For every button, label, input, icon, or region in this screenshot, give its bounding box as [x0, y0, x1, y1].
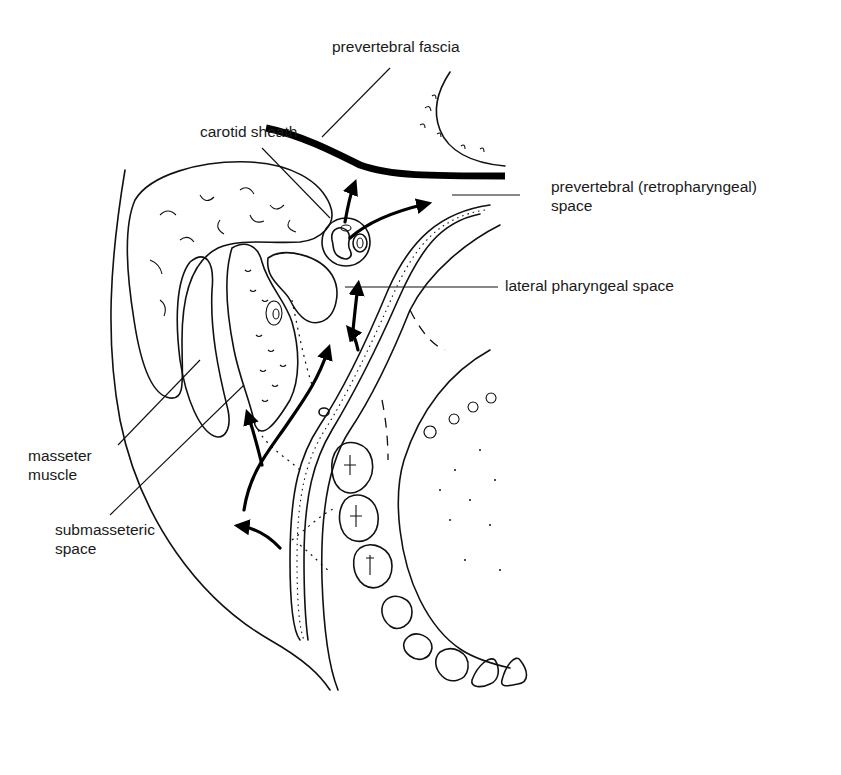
label-submasseteric-space: submasseteric space — [55, 520, 155, 558]
teeth — [332, 443, 527, 687]
label-prevertebral-fascia: prevertebral fascia — [332, 37, 460, 56]
parotid-gland — [127, 162, 332, 398]
label-text-line2: space — [55, 539, 155, 558]
label-text-line2: muscle — [28, 465, 92, 484]
tongue — [398, 350, 510, 668]
label-text: prevertebral fascia — [332, 37, 460, 56]
pharyngeal-wall — [290, 205, 500, 690]
label-text-line1: submasseteric — [55, 520, 155, 539]
carotid-sheath — [322, 218, 370, 266]
label-carotid-sheath: carotid sheath — [200, 122, 297, 141]
label-text-line1: prevertebral (retropharyngeal) — [551, 177, 757, 196]
cheek-outline — [111, 170, 330, 690]
label-lateral-pharyngeal-space: lateral pharyngeal space — [505, 276, 674, 295]
masseter-muscle — [177, 257, 229, 437]
leader-prevertebral-fascia — [322, 68, 390, 137]
label-text-line2: space — [551, 196, 757, 215]
leader-masseter-muscle — [118, 360, 200, 445]
label-masseter-muscle: masseter muscle — [28, 446, 92, 484]
medial-pterygoid-muscle — [268, 253, 337, 323]
label-prevertebral-retropharyngeal-space: prevertebral (retropharyngeal) space — [551, 177, 757, 215]
label-text: carotid sheath — [200, 122, 297, 141]
label-text-line1: masseter — [28, 446, 92, 465]
mandibular-ramus — [227, 244, 298, 431]
label-text: lateral pharyngeal space — [505, 276, 674, 295]
anatomy-diagram — [0, 0, 841, 775]
vertebral-body — [420, 72, 505, 166]
prevertebral-fascia — [266, 128, 505, 176]
leader-submasseteric-space — [110, 385, 244, 515]
